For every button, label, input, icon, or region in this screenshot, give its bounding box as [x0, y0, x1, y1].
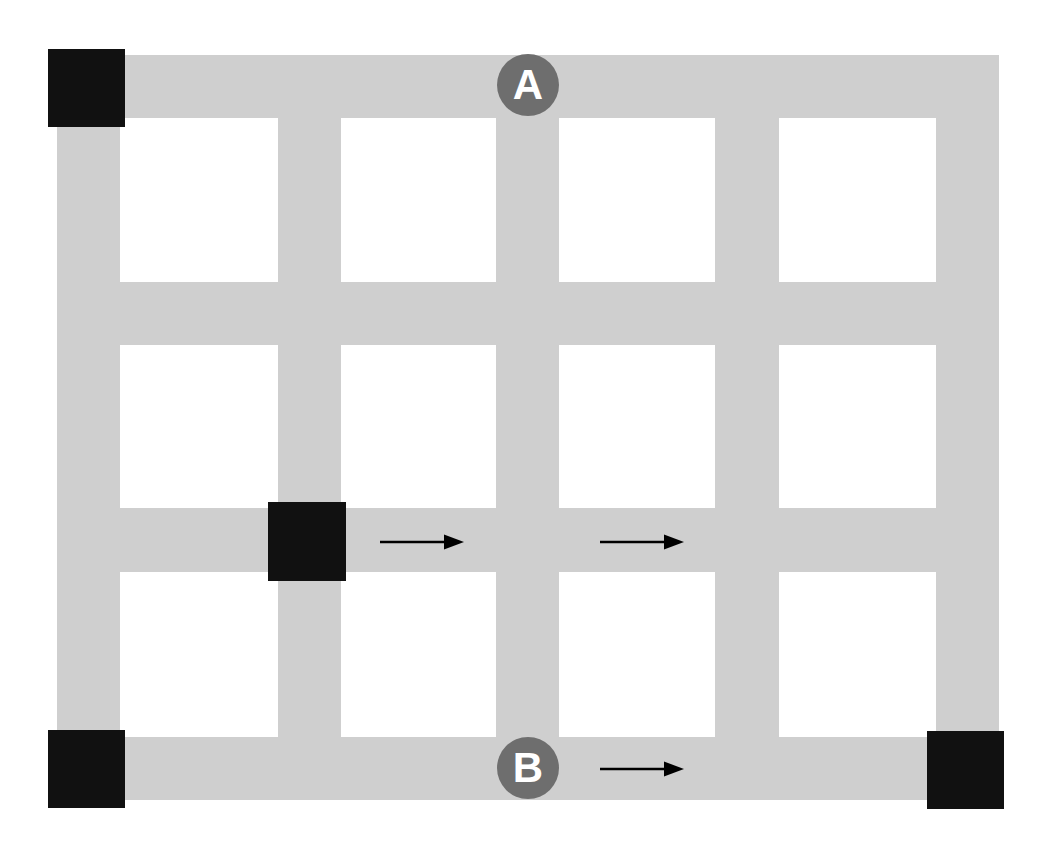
marker-bottom-left[interactable] — [48, 730, 125, 808]
node-b-label: B — [513, 747, 543, 789]
vertical-road-3 — [496, 55, 559, 800]
node-a-label: A — [513, 64, 543, 106]
block-r3c1 — [120, 572, 278, 737]
vertical-road-1 — [57, 55, 120, 800]
diagram-canvas: A B — [0, 0, 1045, 853]
horizontal-road-2 — [57, 282, 999, 345]
vertical-road-2 — [278, 55, 341, 800]
block-r2c4 — [779, 345, 936, 508]
block-r3c2 — [341, 572, 496, 737]
block-r2c1 — [120, 345, 278, 508]
block-r1c1 — [120, 118, 278, 282]
node-a[interactable]: A — [497, 54, 559, 116]
arrow-2-right-icon — [600, 533, 686, 551]
arrow-3-right-icon — [600, 760, 686, 778]
block-r1c4 — [779, 118, 936, 282]
block-r2c2 — [341, 345, 496, 508]
block-r2c3 — [559, 345, 715, 508]
node-b[interactable]: B — [497, 737, 559, 799]
marker-top-left[interactable] — [48, 49, 125, 127]
marker-center[interactable] — [268, 502, 346, 581]
horizontal-road-3 — [57, 508, 999, 572]
vertical-road-5 — [936, 55, 999, 800]
arrow-1-right-icon — [380, 533, 466, 551]
block-r3c3 — [559, 572, 715, 737]
marker-bottom-right[interactable] — [927, 731, 1004, 809]
block-r1c2 — [341, 118, 496, 282]
vertical-road-4 — [715, 55, 779, 800]
block-r3c4 — [779, 572, 936, 737]
block-r1c3 — [559, 118, 715, 282]
